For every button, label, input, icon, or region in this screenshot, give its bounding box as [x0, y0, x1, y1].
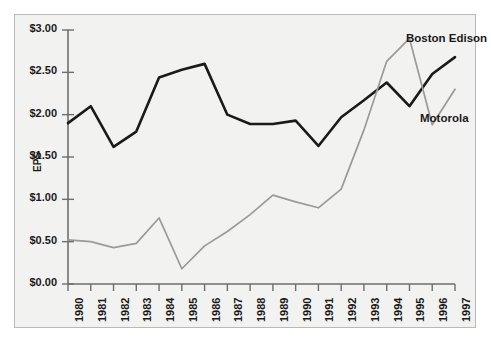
x-axis-tick-label: 1996: [437, 298, 449, 322]
data-series-group: [68, 38, 455, 268]
x-axis-tick-label: 1983: [141, 298, 153, 322]
series-label-boston-edison: Boston Edison: [406, 32, 487, 44]
x-axis-tick-label: 1990: [301, 298, 313, 322]
y-axis-tick-label: $3.00: [0, 22, 57, 34]
x-axis-tick-label: 1988: [255, 298, 267, 322]
x-axis-tick-label: 1997: [460, 298, 472, 322]
x-axis-tick-label: 1985: [187, 298, 199, 322]
y-axis-tick-label: $1.00: [0, 191, 57, 203]
x-axis-tick-label: 1987: [232, 298, 244, 322]
y-axis-tick-label: $1.50: [0, 149, 57, 161]
y-axis-tick-label: $2.50: [0, 64, 57, 76]
series-line-motorola: [68, 38, 455, 268]
y-axis-tick-label: $0.00: [0, 276, 57, 288]
x-axis-tick-label: 1986: [210, 298, 222, 322]
series-label-motorola: Motorola: [420, 112, 469, 124]
x-axis-tick-label: 1991: [323, 298, 335, 322]
eps-line-chart: EPS $0.00$0.50$1.00$1.50$2.00$2.50$3.00 …: [0, 0, 491, 342]
x-axis-tick-label: 1981: [96, 298, 108, 322]
plot-area: [0, 0, 491, 342]
x-axis-tick-label: 1994: [392, 298, 404, 322]
x-axis-tick-label: 1989: [278, 298, 290, 322]
x-axis-ticks: [68, 284, 455, 291]
x-axis-tick-label: 1993: [369, 298, 381, 322]
x-axis-tick-label: 1982: [119, 298, 131, 322]
series-line-boston-edison: [68, 57, 455, 147]
x-axis-tick-label: 1995: [414, 298, 426, 322]
y-axis-tick-label: $0.50: [0, 234, 57, 246]
x-axis-tick-label: 1992: [346, 298, 358, 322]
y-axis-tick-label: $2.00: [0, 107, 57, 119]
x-axis-tick-label: 1980: [73, 298, 85, 322]
x-axis-tick-label: 1984: [164, 298, 176, 322]
